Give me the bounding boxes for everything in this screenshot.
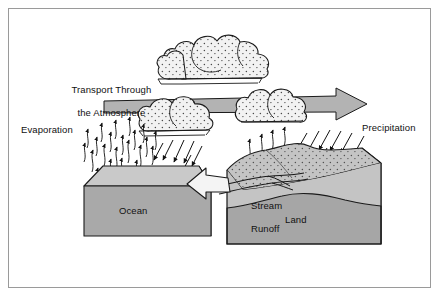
- water-cycle-illustration: [0, 0, 441, 298]
- ocean-label: Ocean: [119, 205, 148, 217]
- stream-runoff-label-line1: Stream: [251, 200, 282, 211]
- ocean-block: [84, 166, 211, 236]
- stream-runoff-label-line2: Runoff: [251, 223, 279, 234]
- transport-label-line1: Transport Through: [71, 84, 151, 95]
- water-cycle-figure: Transport Through the Atmosphere Evapora…: [0, 0, 441, 298]
- precipitation-label: Precipitation: [362, 122, 416, 134]
- transport-label-line2: the Atmosphere: [78, 107, 146, 118]
- transport-label: Transport Through the Atmosphere: [36, 72, 176, 130]
- land-label: Land: [285, 214, 307, 226]
- evaporation-label: Evaporation: [21, 124, 73, 136]
- cloud-right: [235, 89, 306, 122]
- stream-runoff-label: Stream Runoff: [240, 188, 282, 246]
